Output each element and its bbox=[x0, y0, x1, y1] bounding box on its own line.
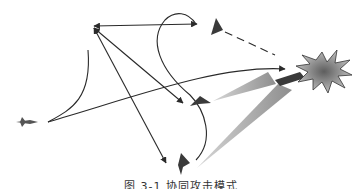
explosion-icon bbox=[296, 50, 352, 93]
uav-bottom-icon bbox=[178, 153, 190, 175]
attack-beams bbox=[197, 72, 292, 168]
uav-top-icon bbox=[211, 18, 223, 35]
uav-middle-icon bbox=[190, 96, 211, 106]
cooperative-attack-diagram bbox=[0, 0, 362, 189]
friendly-aircraft-icon bbox=[16, 117, 38, 127]
figure-caption: 图 3-1 协同攻击模式 bbox=[0, 181, 362, 189]
